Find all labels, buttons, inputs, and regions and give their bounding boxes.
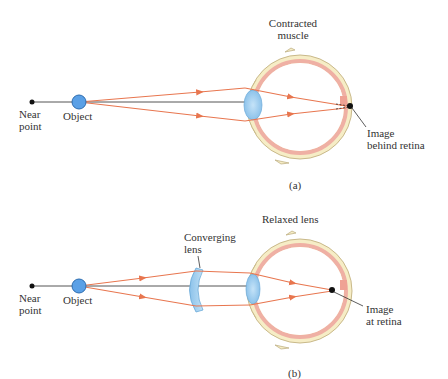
image-at-retina-label: Image at retina bbox=[366, 303, 402, 327]
caption-a: (a) bbox=[289, 179, 301, 191]
converging-lens-leader bbox=[198, 256, 200, 268]
image-behind-retina-label: Image behind retina bbox=[367, 127, 425, 151]
object-label-b: Object bbox=[63, 294, 92, 306]
contracted-muscle-label: Contracted muscle bbox=[264, 17, 322, 41]
panel-a bbox=[30, 48, 367, 164]
converging-lens-label: Converging lens bbox=[184, 231, 236, 255]
image-leader-a bbox=[352, 108, 366, 127]
near-point-label-a: Near point bbox=[19, 108, 42, 132]
caption-b: (b) bbox=[288, 367, 301, 379]
object-label-a: Object bbox=[63, 110, 92, 122]
eye-a bbox=[244, 48, 352, 164]
near-point-dot bbox=[30, 284, 35, 289]
near-point-dot bbox=[30, 100, 35, 105]
object-b bbox=[72, 279, 86, 293]
relaxed-lens-label: Relaxed lens bbox=[262, 213, 319, 225]
eye-b bbox=[246, 231, 352, 349]
near-point-label-b: Near point bbox=[19, 292, 42, 316]
object-a bbox=[72, 95, 86, 109]
